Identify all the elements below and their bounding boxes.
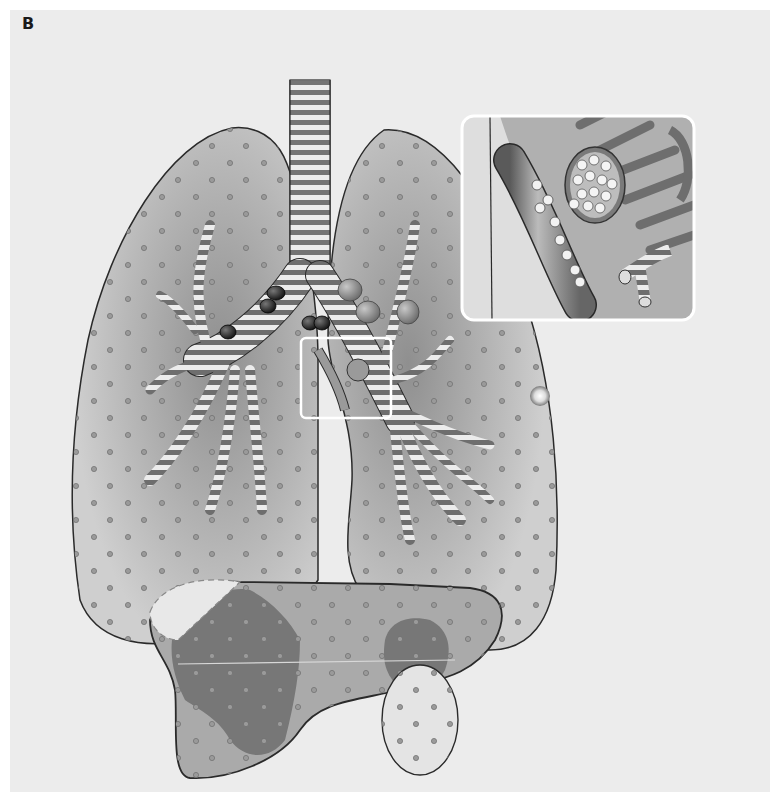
liver <box>150 580 502 778</box>
left-lung <box>72 128 318 644</box>
lung-illustration <box>0 0 777 804</box>
trachea <box>290 80 330 280</box>
pulmonary-nodule <box>530 386 550 406</box>
inset-magnification <box>462 110 694 320</box>
